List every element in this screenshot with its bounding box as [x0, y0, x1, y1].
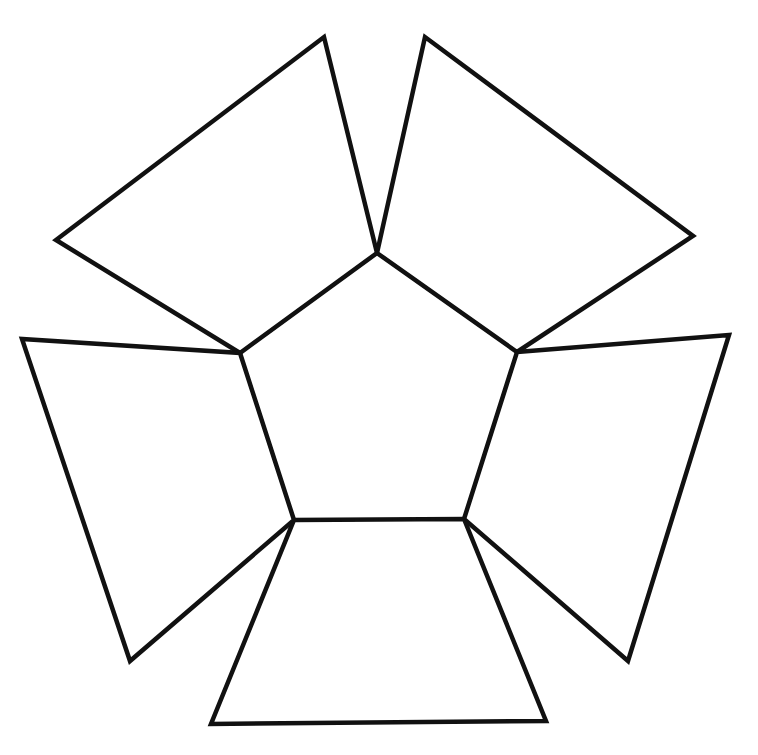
flaps-group	[22, 37, 729, 724]
pentagon-net-diagram	[0, 0, 758, 755]
flap-top-left	[56, 37, 377, 353]
flap-left	[22, 339, 294, 661]
diagram-canvas	[0, 0, 758, 755]
flap-top-right	[377, 37, 693, 352]
